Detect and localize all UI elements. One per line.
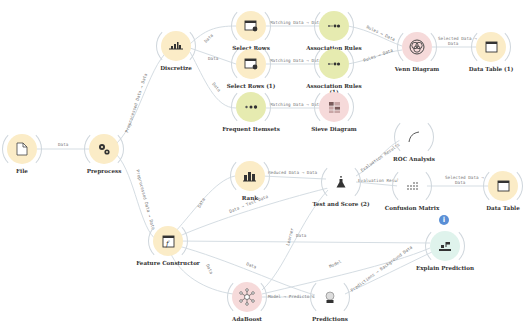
node-data-table-1[interactable]: Data Table (1)	[476, 32, 506, 62]
link-label: Data	[455, 180, 466, 185]
node-roc-analysis[interactable]: ROC Analysis	[399, 122, 429, 152]
node-venn-diagram[interactable]: Venn Diagram	[402, 32, 432, 62]
node-association-rules[interactable]: Association Rules	[319, 11, 349, 41]
node-association-rules-1[interactable]: Association Rules (1)	[319, 49, 349, 79]
link-label: Data	[296, 233, 307, 238]
rank-icon	[235, 161, 265, 191]
node-sieve-diagram[interactable]: Sieve Diagram	[319, 92, 349, 122]
table-icon	[476, 32, 506, 62]
rules-icon	[319, 11, 349, 41]
info-badge-icon[interactable]: i	[439, 215, 449, 225]
link-label: Predictions → Background Data	[350, 244, 414, 292]
link-label: Data	[197, 197, 207, 209]
node-test-and-score[interactable]: Test and Score (2)	[326, 167, 356, 197]
explain-icon	[430, 231, 460, 261]
link-label: Data	[205, 263, 214, 275]
link-label: Data	[208, 56, 219, 61]
link-label: Rules → Data	[363, 47, 394, 62]
node-frequent-itemsets[interactable]: Frequent Itemsets	[236, 92, 266, 122]
node-file[interactable]: File	[7, 134, 37, 164]
link-label: Data	[448, 41, 459, 46]
link-label: Data	[211, 81, 222, 92]
select-rows-icon	[236, 49, 266, 79]
gears-icon	[89, 134, 119, 164]
link-label: Rules → Data	[366, 24, 397, 42]
link-label: Reduced Data → Data	[268, 170, 318, 175]
node-adaboost[interactable]: AdaBoost	[232, 282, 262, 312]
venn-icon	[402, 32, 432, 62]
node-select-rows[interactable]: Select Rows	[236, 11, 266, 41]
link-label: Preprocessed Data → Data	[124, 72, 148, 133]
link-label: Preprocessed Data → Data	[135, 169, 156, 231]
link-label: Data	[246, 261, 258, 269]
node-confusion-matrix[interactable]: Confusion Matrix	[397, 171, 427, 201]
link-label: Model	[328, 259, 342, 269]
node-predictions[interactable]: Predictions	[315, 282, 345, 312]
node-rank[interactable]: Rank	[235, 161, 265, 191]
link-label: Model → Predictors	[268, 294, 315, 299]
select-rows-icon	[236, 11, 266, 41]
node-select-rows-1[interactable]: Select Rows (1)	[236, 49, 266, 79]
discretize-icon	[161, 31, 191, 61]
link-label: Data	[58, 142, 69, 147]
matrix-icon	[397, 171, 427, 201]
roc-curve-icon	[399, 122, 429, 152]
node-preprocess[interactable]: Preprocess	[89, 134, 119, 164]
rules-icon	[319, 49, 349, 79]
link-label: Data	[203, 33, 214, 44]
network-icon	[232, 282, 262, 312]
file-icon	[7, 134, 37, 164]
itemsets-icon	[236, 92, 266, 122]
node-feature-constructor[interactable]: f Feature Constructor	[153, 226, 183, 256]
crystal-ball-icon	[315, 282, 345, 312]
node-explain-prediction[interactable]: i Explain Prediction	[430, 231, 460, 261]
function-icon: f	[153, 226, 183, 256]
table-icon	[488, 171, 518, 201]
flask-icon	[326, 167, 356, 197]
node-discretize[interactable]: Discretize	[161, 31, 191, 61]
node-data-table[interactable]: Data Table	[488, 171, 518, 201]
sieve-icon	[319, 92, 349, 122]
